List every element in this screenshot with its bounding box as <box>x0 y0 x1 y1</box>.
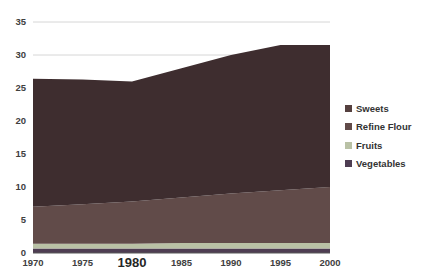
y-tick-label: 35 <box>0 17 26 27</box>
area-vegetables <box>33 248 330 253</box>
x-tick-label: 1985 <box>171 257 192 268</box>
legend-label: Vegetables <box>356 158 406 169</box>
legend-item-fruits: Fruits <box>345 139 411 151</box>
legend-item-sweets: Sweets <box>345 102 411 114</box>
x-tick-label: 1990 <box>220 257 241 268</box>
legend-label: Refine Flour <box>356 121 411 132</box>
y-tick-label: 30 <box>0 50 26 60</box>
legend-item-vegetables: Vegetables <box>345 158 411 170</box>
x-tick-label: 1980 <box>118 255 147 270</box>
legend: SweetsRefine FlourFruitsVegetables <box>345 102 411 170</box>
y-tick-label: 20 <box>0 116 26 126</box>
legend-item-refine-flour: Refine Flour <box>345 121 411 133</box>
y-tick-label: 25 <box>0 83 26 93</box>
y-tick-label: 5 <box>0 215 26 225</box>
area-fruits <box>33 243 330 248</box>
legend-swatch-icon <box>345 142 352 149</box>
stacked-area-chart: 05101520253035 1970197519801985199019952… <box>0 0 426 270</box>
x-tick-label: 1975 <box>72 257 93 268</box>
y-tick-label: 10 <box>0 182 26 192</box>
legend-swatch-icon <box>345 123 352 130</box>
legend-label: Sweets <box>356 103 389 114</box>
legend-swatch-icon <box>345 105 352 112</box>
legend-swatch-icon <box>345 160 352 167</box>
x-tick-label: 1995 <box>270 257 291 268</box>
legend-label: Fruits <box>356 140 382 151</box>
y-tick-label: 15 <box>0 149 26 159</box>
area-sweets <box>33 45 330 207</box>
x-tick-label: 1970 <box>22 257 43 268</box>
x-tick-label: 2000 <box>319 257 340 268</box>
